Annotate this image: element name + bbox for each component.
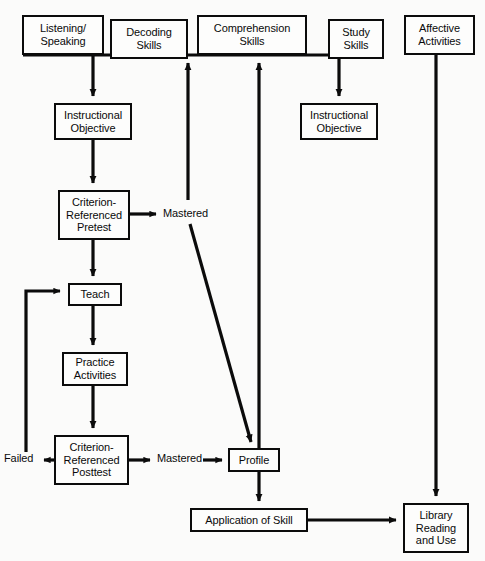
connector-mastered-to-profile <box>190 224 251 442</box>
node-instructional-objective-left[interactable]: Instructional Objective <box>54 103 132 140</box>
node-teach[interactable]: Teach <box>68 283 122 306</box>
flowchart-diagram: Listening/ Speaking Decoding Skills Comp… <box>0 0 485 561</box>
edge-label-mastered-pretest: Mastered <box>163 208 208 219</box>
node-listening-speaking[interactable]: Listening/ Speaking <box>22 15 104 55</box>
node-decoding-skills[interactable]: Decoding Skills <box>110 19 188 59</box>
node-profile[interactable]: Profile <box>228 448 280 472</box>
node-application-of-skill[interactable]: Application of Skill <box>190 508 308 532</box>
connector-failed-to-teach <box>26 291 60 452</box>
node-practice-activities[interactable]: Practice Activities <box>62 352 128 386</box>
edge-label-failed-posttest: Failed <box>4 453 33 464</box>
node-comprehension-skills[interactable]: Comprehension Skills <box>197 15 307 55</box>
edge-label-mastered-posttest: Mastered <box>157 453 202 464</box>
node-study-skills[interactable]: Study Skills <box>328 19 384 59</box>
node-criterion-referenced-pretest[interactable]: Criterion- Referenced Pretest <box>58 190 130 240</box>
node-affective-activities[interactable]: Affective Activities <box>404 15 475 55</box>
node-library-reading-and-use[interactable]: Library Reading and Use <box>403 503 469 553</box>
node-criterion-referenced-posttest[interactable]: Criterion- Referenced Posttest <box>54 435 129 485</box>
node-instructional-objective-right[interactable]: Instructional Objective <box>300 103 378 140</box>
